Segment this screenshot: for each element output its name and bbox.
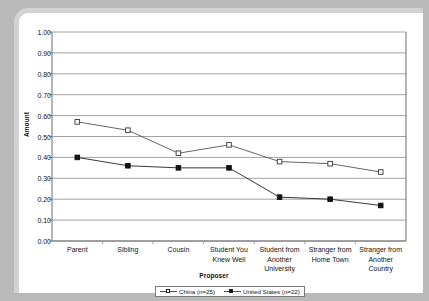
legend-entry-2: United States (n=22) (224, 288, 300, 295)
filled-square-icon (224, 288, 241, 295)
data-point-marker (126, 163, 131, 168)
data-point-marker (328, 161, 333, 166)
x-axis-tick-label: Parent (50, 245, 104, 255)
data-point-marker (75, 120, 80, 125)
x-axis-tick-label: Sibling (101, 245, 155, 255)
data-point-marker (378, 203, 383, 208)
data-point-marker (378, 170, 383, 175)
legend-entry-1: China (n=25) (160, 288, 215, 295)
data-point-marker (176, 166, 181, 171)
data-point-marker (328, 197, 333, 202)
legend-marker (166, 289, 170, 293)
data-point-marker (176, 151, 181, 156)
legend-marker (229, 289, 233, 293)
x-axis-tick-label: Stranger fromAnotherCountry (354, 245, 408, 274)
data-point-marker (75, 155, 80, 160)
data-point-marker (227, 143, 232, 148)
x-axis-tick-label: Student YouKnew Well (202, 245, 256, 264)
chart-legend: China (n=25)United States (n=22) (155, 286, 305, 297)
data-point-marker (277, 159, 282, 164)
figure-card: Amount 1.000.900.800.700.600.500.400.300… (14, 8, 423, 293)
x-axis-title: Proposer (19, 272, 409, 279)
legend-label: United States (n=22) (243, 288, 300, 295)
data-point-marker (126, 128, 131, 133)
legend-label: China (n=25) (179, 288, 215, 295)
x-axis-tick-label: Cousin (151, 245, 205, 255)
x-axis-tick-label: Stranger fromHome Town (303, 245, 357, 264)
data-point-marker (277, 195, 282, 200)
x-axis-tick-label: Student fromAnotherUniversity (253, 245, 307, 274)
open-square-icon (160, 288, 177, 295)
data-point-marker (227, 166, 232, 171)
line-chart: Amount 1.000.900.800.700.600.500.400.300… (19, 13, 428, 298)
